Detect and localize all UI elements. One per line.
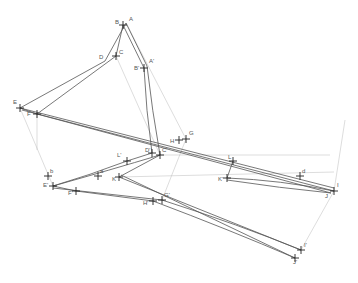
label-B-prime: B': [134, 65, 139, 71]
label-C: C: [119, 49, 124, 55]
label-J: J: [325, 193, 328, 199]
label-D: D: [99, 54, 104, 60]
construction-lines: [20, 23, 345, 250]
label-C-prime: C': [162, 147, 167, 153]
label-L-prime: L': [117, 152, 121, 158]
label-A-prime: A': [149, 58, 154, 64]
label-A: A: [129, 16, 133, 22]
point-markers: [16, 21, 338, 262]
label-E: E: [13, 99, 17, 105]
label-E-prime: E': [43, 182, 48, 188]
label-H: H: [170, 138, 174, 144]
label-d: d: [302, 168, 305, 174]
label-G-prime: G': [164, 192, 170, 198]
label-K: K: [112, 176, 116, 182]
label-F-prime: F': [68, 190, 73, 196]
label-b: b: [50, 168, 54, 174]
label-D-prime: D': [145, 147, 150, 153]
label-I-prime: I': [304, 242, 307, 248]
label-J-prime: J': [293, 259, 297, 265]
main-lines: [20, 23, 334, 258]
point-labels: A B A' B' C D E F G H D' C' L' L K' K a …: [13, 16, 339, 265]
label-I: I: [337, 182, 339, 188]
label-a: a: [100, 168, 104, 174]
label-G: G: [189, 130, 194, 136]
label-K-prime: K': [218, 176, 223, 182]
label-B: B: [115, 19, 119, 25]
diagram-canvas: A B A' B' C D E F G H D' C' L' L K' K a …: [0, 0, 358, 283]
label-H-prime: H': [143, 200, 148, 206]
label-F: F: [27, 111, 31, 117]
